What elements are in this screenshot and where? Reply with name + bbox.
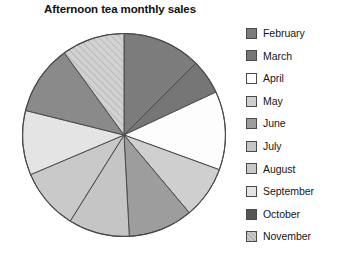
legend-item-may[interactable]: May <box>246 90 340 113</box>
legend-swatch-icon <box>246 28 257 39</box>
legend-item-label: June <box>263 112 286 135</box>
pie-chart-figure: Afternoon tea monthly sales FebruaryMarc… <box>0 0 340 255</box>
legend-item-october[interactable]: October <box>246 203 340 226</box>
legend-item-label: September <box>263 180 314 203</box>
legend-swatch-icon <box>246 141 257 152</box>
legend-item-label: August <box>263 158 295 181</box>
legend-item-july[interactable]: July <box>246 135 340 158</box>
legend-swatch-icon <box>246 163 257 174</box>
legend-item-label: November <box>263 225 311 248</box>
legend-swatch-icon <box>246 96 257 107</box>
legend-swatch-icon <box>246 231 257 242</box>
pie-svg <box>16 26 234 246</box>
legend-item-june[interactable]: June <box>246 112 340 135</box>
legend-item-label: October <box>263 203 300 226</box>
legend-item-april[interactable]: April <box>246 67 340 90</box>
legend-item-label: March <box>263 45 292 68</box>
legend-swatch-icon <box>246 73 257 84</box>
legend-swatch-icon <box>246 50 257 61</box>
legend-item-february[interactable]: February <box>246 22 340 45</box>
legend-swatch-icon <box>246 186 257 197</box>
legend-item-november[interactable]: November <box>246 225 340 248</box>
legend-item-august[interactable]: August <box>246 158 340 181</box>
pie-slice-group <box>22 34 225 237</box>
pie-plot-area <box>16 26 234 246</box>
legend-item-label: February <box>263 22 305 45</box>
legend-item-label: April <box>263 67 284 90</box>
page-title: Afternoon tea monthly sales <box>0 3 240 15</box>
legend-item-september[interactable]: September <box>246 180 340 203</box>
legend-item-march[interactable]: March <box>246 45 340 68</box>
legend-item-label: July <box>263 135 281 158</box>
legend-swatch-icon <box>246 209 257 220</box>
legend-swatch-icon <box>246 118 257 129</box>
legend: FebruaryMarchAprilMayJuneJulyAugustSepte… <box>246 22 340 248</box>
legend-item-label: May <box>263 90 283 113</box>
